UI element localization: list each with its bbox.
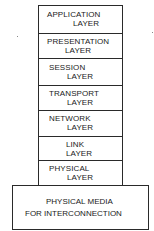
presentation-layer-box: PRESENTATION LAYER — [39, 34, 122, 59]
layer-label: LAYER — [65, 46, 91, 55]
base-subtitle: FOR INTERCONNECTION — [25, 209, 122, 219]
layer-name: SESSION — [49, 63, 85, 72]
transport-layer-box: TRANSPORT LAYER — [39, 86, 122, 111]
layer-label: LAYER — [66, 149, 92, 158]
network-layer-box: NETWORK LAYER — [39, 111, 122, 137]
layer-name: PRESENTATION — [47, 37, 109, 46]
link-layer-box: LINK LAYER — [39, 137, 122, 161]
layer-stack: APPLICATION LAYER PRESENTATION LAYER SES… — [38, 5, 123, 186]
layer-label: LAYER — [67, 98, 93, 107]
scan-speck — [17, 36, 18, 37]
layer-name: PHYSICAL — [49, 164, 89, 173]
layer-name: NETWORK — [49, 114, 91, 123]
session-layer-box: SESSION LAYER — [39, 59, 122, 86]
layer-label: LAYER — [73, 19, 99, 28]
layer-name: TRANSPORT — [49, 89, 99, 98]
layer-name: APPLICATION — [47, 10, 100, 19]
physical-layer-box: PHYSICAL LAYER — [39, 161, 122, 186]
layer-label: LAYER — [67, 72, 93, 81]
physical-media-box: PHYSICAL MEDIA FOR INTERCONNECTION — [12, 185, 149, 230]
application-layer-box: APPLICATION LAYER — [39, 6, 122, 34]
layer-name: LINK — [66, 140, 84, 149]
scan-speck — [152, 32, 153, 33]
layer-label: LAYER — [67, 173, 93, 182]
base-title: PHYSICAL MEDIA — [46, 197, 113, 207]
layer-label: LAYER — [67, 123, 93, 132]
